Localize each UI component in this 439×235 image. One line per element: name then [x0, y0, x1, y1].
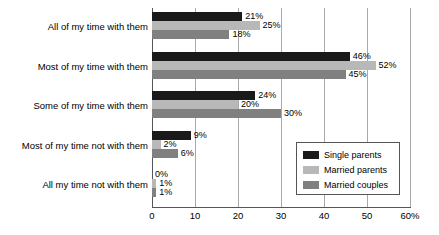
x-tick-label: 20 — [233, 210, 244, 221]
legend-item: Married parents — [303, 163, 399, 177]
bar — [152, 12, 242, 21]
bar-value-label: 25% — [263, 20, 281, 30]
bar-value-label: 6% — [181, 148, 194, 158]
x-axis-tick-labels: 0102030405060% — [0, 210, 439, 230]
legend-item: Married couples — [303, 178, 399, 192]
bar-row: 21% — [152, 12, 410, 21]
x-axis-line — [152, 207, 411, 208]
category-label: All my time not with them — [2, 180, 148, 190]
bar — [152, 100, 238, 109]
legend-label: Married parents — [324, 165, 387, 175]
category-label: Most of my time not with them — [2, 141, 148, 151]
category-label: Some of my time with them — [2, 101, 148, 111]
legend-swatch-icon — [303, 151, 319, 159]
bar — [152, 188, 156, 197]
bar-value-label: 18% — [232, 29, 250, 39]
gridline-60 — [410, 8, 411, 207]
legend-label: Married couples — [324, 180, 388, 190]
x-tick-label: 50 — [362, 210, 373, 221]
legend-swatch-icon — [303, 166, 319, 174]
bar-row: 25% — [152, 21, 410, 30]
x-tick-label: 30 — [276, 210, 287, 221]
bar-value-label: 24% — [258, 90, 276, 100]
category-label: All of my time with them — [2, 22, 148, 32]
bar — [152, 61, 376, 70]
bar-row: 30% — [152, 109, 410, 118]
x-tick-label: 40 — [319, 210, 330, 221]
bar-row: 9% — [152, 131, 410, 140]
bar-value-label: 9% — [194, 130, 207, 140]
bar — [152, 91, 255, 100]
bar-value-label: 21% — [245, 11, 263, 21]
bar-value-label: 30% — [284, 108, 302, 118]
bar-value-label: 52% — [379, 60, 397, 70]
legend-item: Single parents — [303, 148, 399, 162]
x-tick-label: 0 — [149, 210, 154, 221]
bar-value-label: 45% — [349, 69, 367, 79]
bar — [152, 109, 281, 118]
bar-row: 52% — [152, 61, 410, 70]
category-axis: All of my time with themMost of my time … — [0, 0, 148, 235]
bar-value-label: 2% — [164, 139, 177, 149]
bar-value-label: 46% — [353, 51, 371, 61]
x-tick-label: 10 — [190, 210, 201, 221]
bar-row: 45% — [152, 70, 410, 79]
chart-legend: Single parentsMarried parentsMarried cou… — [296, 142, 400, 195]
bar — [152, 140, 161, 149]
bar-chart: All of my time with themMost of my time … — [0, 0, 439, 235]
legend-swatch-icon — [303, 181, 319, 189]
bar-value-label: 20% — [241, 99, 259, 109]
bar-row: 18% — [152, 30, 410, 39]
category-label: Most of my time with them — [2, 62, 148, 72]
legend-label: Single parents — [324, 150, 382, 160]
bar — [152, 149, 178, 158]
bar — [152, 52, 350, 61]
bar — [152, 30, 229, 39]
bar — [152, 179, 156, 188]
bar-row: 20% — [152, 100, 410, 109]
bar — [152, 70, 346, 79]
x-tick-label: 60% — [400, 210, 419, 221]
bar-row: 46% — [152, 52, 410, 61]
bar-row: 24% — [152, 91, 410, 100]
bar-value-label: 1% — [159, 187, 172, 197]
